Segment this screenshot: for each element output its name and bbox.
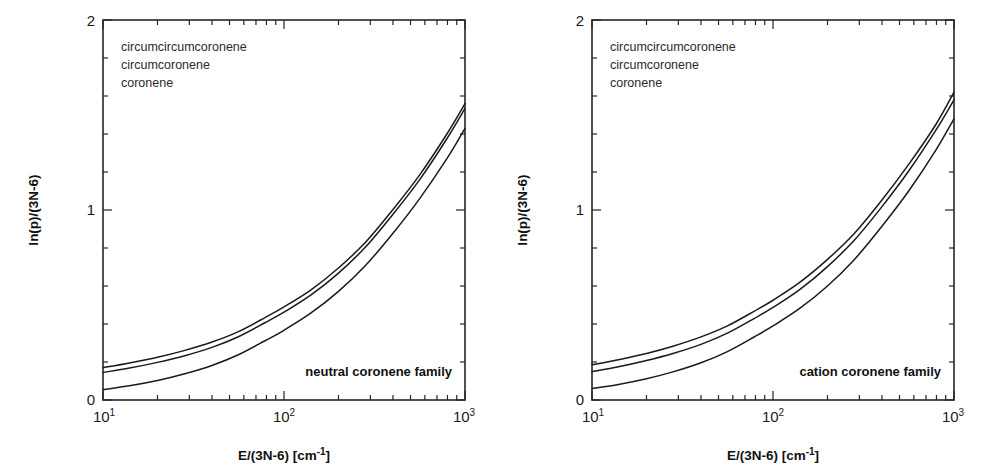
legend-entry-1-cation: circumcoronene (610, 58, 699, 72)
x-tick-label-10e1: 101 (93, 407, 116, 425)
annotation-cation: cation coronene family (799, 364, 941, 379)
x-tick-label-10e1: 101 (582, 407, 605, 425)
x-tick-label-10e2: 102 (273, 407, 296, 425)
y-tick-label-1: 1 (87, 201, 95, 218)
y-tick-label-0: 0 (87, 391, 95, 408)
legend-entry-2-cation: coronene (610, 76, 662, 90)
x-axis-title-neutral: E/(3N-6) [cm-1] (238, 446, 330, 463)
y-tick-label-0: 0 (576, 391, 584, 408)
figure-container: 2 1 0 101 102 103 E/(3N-6) [cm-1] ln(p)/… (0, 0, 990, 473)
annotation-neutral: neutral coronene family (305, 364, 452, 379)
y-tick-label-1: 1 (576, 201, 584, 218)
legend-entry-0-cation: circumcircumcoronene (610, 40, 736, 54)
legend-entry-2-neutral: coronene (121, 76, 173, 90)
chart-panel-neutral: 2 1 0 101 102 103 E/(3N-6) [cm-1] ln(p)/… (0, 0, 495, 473)
chart-panel-cation: 2 1 0 101 102 103 E/(3N-6) [cm-1] ln(p)/… (495, 0, 990, 473)
y-axis-title-cation: ln(p)/(3N-6) (515, 174, 530, 245)
y-axis-title-neutral: ln(p)/(3N-6) (26, 174, 41, 245)
y-tick-label-2: 2 (87, 12, 95, 29)
legend-entry-0-neutral: circumcircumcoronene (121, 40, 247, 54)
legend-entry-1-neutral: circumcoronene (121, 58, 210, 72)
x-tick-label-10e3: 103 (942, 407, 965, 425)
x-tick-label-10e3: 103 (453, 407, 476, 425)
plot-labels-neutral: 2 1 0 101 102 103 E/(3N-6) [cm-1] ln(p)/… (0, 0, 495, 473)
y-tick-label-2: 2 (576, 12, 584, 29)
x-axis-title-cation: E/(3N-6) [cm-1] (727, 446, 819, 463)
plot-labels-cation: 2 1 0 101 102 103 E/(3N-6) [cm-1] ln(p)/… (495, 0, 990, 473)
x-tick-label-10e2: 102 (762, 407, 785, 425)
